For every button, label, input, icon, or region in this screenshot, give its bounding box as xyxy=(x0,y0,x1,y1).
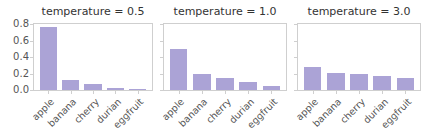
x-tick-mark xyxy=(313,91,314,94)
x-tick-mark xyxy=(359,91,360,94)
y-tick-mark xyxy=(160,74,163,75)
subplot-title: temperature = 1.0 xyxy=(163,5,287,18)
bar-durian xyxy=(373,76,391,90)
x-tick-mark xyxy=(405,91,406,94)
bar-cherry xyxy=(84,84,101,90)
x-tick-label: cherry xyxy=(204,96,233,125)
bar-durian xyxy=(239,82,257,90)
y-tick-mark xyxy=(30,24,33,25)
bar-banana xyxy=(193,74,211,91)
bar-eggfruit xyxy=(129,89,146,90)
subplot-panel: temperature = 1.0applebananacherrydurian… xyxy=(163,0,287,134)
x-tick-label: cherry xyxy=(338,96,367,125)
bar-cherry xyxy=(216,78,234,90)
y-tick-mark xyxy=(30,90,33,91)
y-tick-mark xyxy=(160,24,163,25)
y-tick-mark xyxy=(294,57,297,58)
x-tick-mark xyxy=(93,91,94,94)
x-tick-mark xyxy=(179,91,180,94)
bar-banana xyxy=(62,80,79,90)
y-tick-mark xyxy=(30,74,33,75)
x-tick-mark xyxy=(71,91,72,94)
y-tick-mark xyxy=(294,24,297,25)
bar-cherry xyxy=(350,74,368,90)
y-tick-label: 0.6 xyxy=(13,36,29,46)
x-tick-mark xyxy=(382,91,383,94)
y-tick-mark xyxy=(30,41,33,42)
x-tick-mark xyxy=(138,91,139,94)
x-tick-mark xyxy=(48,91,49,94)
subplot-panel: temperature = 0.50.00.20.40.60.8appleban… xyxy=(33,0,153,134)
bar-eggfruit xyxy=(263,86,281,90)
x-tick-mark xyxy=(336,91,337,94)
y-tick-label: 0.0 xyxy=(13,85,29,95)
x-tick-mark xyxy=(248,91,249,94)
y-tick-mark xyxy=(294,74,297,75)
x-tick-mark xyxy=(115,91,116,94)
y-tick-mark xyxy=(294,90,297,91)
y-tick-mark xyxy=(30,57,33,58)
x-tick-mark xyxy=(271,91,272,94)
y-tick-label: 0.4 xyxy=(13,52,29,62)
x-tick-mark xyxy=(202,91,203,94)
plot-area: 0.00.20.40.60.8applebananacherrydurianeg… xyxy=(33,23,153,91)
plot-area: applebananacherrydurianeggfruit xyxy=(163,23,287,91)
subplot-title: temperature = 0.5 xyxy=(33,5,153,18)
subplot-title: temperature = 3.0 xyxy=(297,5,421,18)
bar-durian xyxy=(107,88,124,90)
y-tick-mark xyxy=(160,57,163,58)
y-tick-mark xyxy=(160,90,163,91)
subplot-panel: temperature = 3.0applebananacherrydurian… xyxy=(297,0,421,134)
bar-apple xyxy=(304,67,322,90)
bar-apple xyxy=(170,49,188,90)
y-tick-label: 0.2 xyxy=(13,69,29,79)
x-tick-mark xyxy=(225,91,226,94)
plot-area: applebananacherrydurianeggfruit xyxy=(297,23,421,91)
y-tick-label: 0.8 xyxy=(13,19,29,29)
y-tick-mark xyxy=(160,41,163,42)
bar-apple xyxy=(40,27,57,90)
bar-eggfruit xyxy=(397,78,415,90)
bar-banana xyxy=(327,73,345,90)
y-tick-mark xyxy=(294,41,297,42)
